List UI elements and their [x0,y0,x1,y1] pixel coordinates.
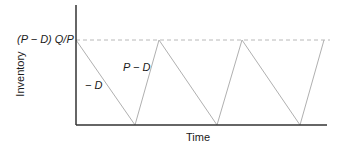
x-axis-label: Time [186,132,210,143]
y-axis-label: Inventory [15,51,26,96]
inventory-sawtooth-line [76,40,324,125]
peak-level-label: (P − D) Q/P [17,34,74,45]
depletion-slope-label: − D [85,80,102,91]
buildup-slope-label: P − D [123,62,150,73]
inventory-diagram [0,0,342,148]
